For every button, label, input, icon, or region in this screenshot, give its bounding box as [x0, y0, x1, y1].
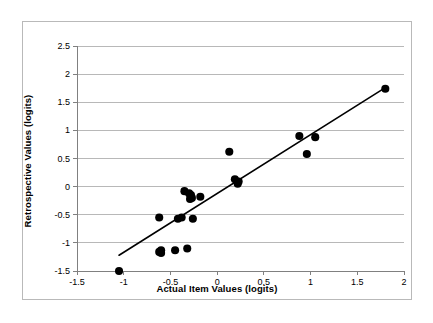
chart-frame: -1.5-1-0.500.511.522.5 -1.5-1-0.500.511.… — [22, 21, 412, 300]
plot-area: -1.5-1-0.500.511.522.5 -1.5-1-0.500.511.… — [23, 22, 411, 299]
tick-marks — [73, 46, 404, 275]
scatter-plot-figure: -1.5-1-0.500.511.522.5 -1.5-1-0.500.511.… — [0, 0, 433, 323]
data-points — [115, 85, 389, 275]
y-axis-title: Retrospective Values (logits) — [19, 22, 35, 299]
gridlines — [77, 46, 404, 271]
plot-canvas — [23, 22, 413, 301]
trend-line — [119, 88, 385, 256]
y-axis-title-text: Retrospective Values (logits) — [22, 94, 33, 227]
x-axis-title: Actual Item Values (logits) — [23, 283, 411, 294]
